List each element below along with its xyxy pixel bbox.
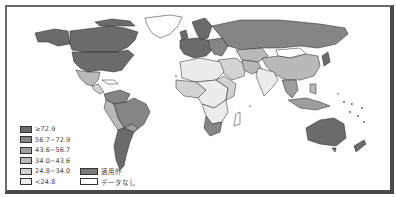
uk	[180, 30, 188, 40]
legend-item: ≥72.9	[20, 124, 70, 135]
legend-extra: 適用外 データなし	[80, 166, 137, 187]
caribbean	[102, 80, 118, 84]
mexico	[76, 70, 100, 86]
legend-swatch	[80, 168, 98, 175]
legend: ≥72.9 56.7−72.9 43.6−56.7 34.0−43.6 24.8…	[20, 124, 70, 187]
legend-item: 34.0−43.6	[20, 156, 70, 167]
legend-label: <24.8	[35, 178, 55, 186]
legend-swatch	[20, 126, 32, 133]
legend-item: 24.8−34.0	[20, 166, 70, 177]
argentina-chile	[114, 128, 134, 170]
legend-label: 適用外	[101, 166, 122, 176]
legend-label: 24.8−34.0	[35, 167, 70, 175]
scandinavia	[192, 18, 212, 40]
russia	[212, 20, 348, 50]
greenland	[145, 15, 182, 38]
legend-swatch	[20, 147, 32, 154]
legend-label: 56.7−72.9	[35, 136, 70, 144]
legend-label: ≥72.9	[35, 125, 55, 133]
australia	[306, 118, 346, 146]
japan	[322, 52, 330, 66]
indonesia	[288, 98, 330, 110]
north-africa	[180, 58, 224, 82]
legend-item-no-data: データなし	[80, 177, 137, 188]
legend-label: 34.0−43.6	[35, 157, 70, 165]
tasmania	[332, 148, 336, 152]
legend-item: 56.7−72.9	[20, 135, 70, 146]
legend-item-not-applicable: 適用外	[80, 166, 137, 177]
legend-swatch	[20, 168, 32, 175]
legend-item: <24.8	[20, 177, 70, 188]
legend-swatch	[20, 157, 32, 164]
usa	[72, 50, 134, 72]
legend-item: 43.6−56.7	[20, 145, 70, 156]
canada-arctic	[95, 19, 135, 26]
new-zealand	[354, 140, 366, 152]
legend-swatch	[20, 178, 32, 185]
legend-swatch	[20, 136, 32, 143]
central-america	[92, 84, 104, 94]
madagascar	[234, 112, 240, 126]
philippines	[310, 84, 316, 94]
canada	[70, 26, 138, 52]
legend-label: データなし	[101, 177, 137, 187]
southeast-asia	[282, 80, 298, 98]
legend-swatch	[80, 178, 98, 185]
alaska	[35, 29, 70, 46]
legend-label: 43.6−56.7	[35, 146, 70, 154]
